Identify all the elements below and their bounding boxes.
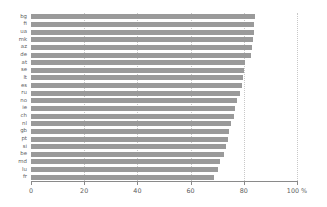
y-axis-tick-label: mk	[0, 37, 27, 42]
x-axis-tick	[31, 181, 32, 185]
y-axis-tick-label: gb	[0, 128, 27, 133]
y-axis-tick-label: bg	[0, 14, 27, 19]
y-axis-tick-label: lt	[0, 75, 27, 80]
x-axis-tick-label: 80	[240, 188, 248, 195]
x-axis-tick-label: 100 %	[287, 188, 307, 195]
x-axis-tick	[191, 181, 192, 185]
x-axis-tick	[84, 181, 85, 185]
y-axis-tick-label: az	[0, 44, 27, 49]
y-axis-tick-label: ch	[0, 113, 27, 118]
x-axis-tick-label: 40	[133, 188, 141, 195]
y-axis-tick-label: de	[0, 52, 27, 57]
y-axis-tick-label: ru	[0, 90, 27, 95]
y-axis-tick-label: fr	[0, 174, 27, 179]
y-axis-tick-label: se	[0, 67, 27, 72]
y-axis-tick-label: es	[0, 83, 27, 88]
x-axis-tick	[297, 181, 298, 185]
y-axis-tick-label: ie	[0, 105, 27, 110]
y-axis-tick-label: fi	[0, 21, 27, 26]
y-axis-tick-label: no	[0, 98, 27, 103]
y-axis-tick-label: be	[0, 151, 27, 156]
y-axis-tick-label: si	[0, 144, 27, 149]
x-axis-tick	[137, 181, 138, 185]
x-axis-tick	[244, 181, 245, 185]
x-axis-line	[31, 181, 298, 182]
bar-chart: bgfiuamkazdeatseltesrunoiechnlgbptsibemd…	[0, 0, 327, 207]
y-axis-tick-label: ua	[0, 29, 27, 34]
y-axis-tick-label: pt	[0, 136, 27, 141]
x-axis-tick-label: 20	[80, 188, 88, 195]
x-axis-tick-label: 0	[29, 188, 33, 195]
y-axis-labels: bgfiuamkazdeatseltesrunoiechnlgbptsibemd…	[0, 13, 327, 181]
y-axis-tick-label: at	[0, 60, 27, 65]
x-axis-tick-label: 60	[187, 188, 195, 195]
y-axis-tick-label: md	[0, 159, 27, 164]
y-axis-tick-label: nl	[0, 121, 27, 126]
y-axis-tick-label: lu	[0, 167, 27, 172]
